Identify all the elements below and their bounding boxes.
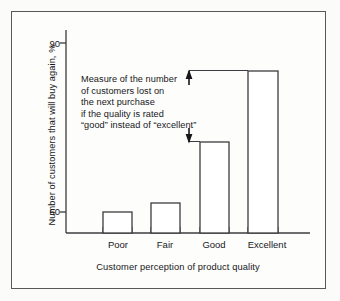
plot-area xyxy=(0,0,340,301)
chart-page: Number of customers that will buy again,… xyxy=(0,0,340,301)
bar-fair xyxy=(151,203,180,233)
bar-good xyxy=(200,142,229,233)
callout-arrow-down-head xyxy=(186,134,193,144)
bar-poor xyxy=(103,212,132,233)
bar-excellent xyxy=(248,71,278,233)
